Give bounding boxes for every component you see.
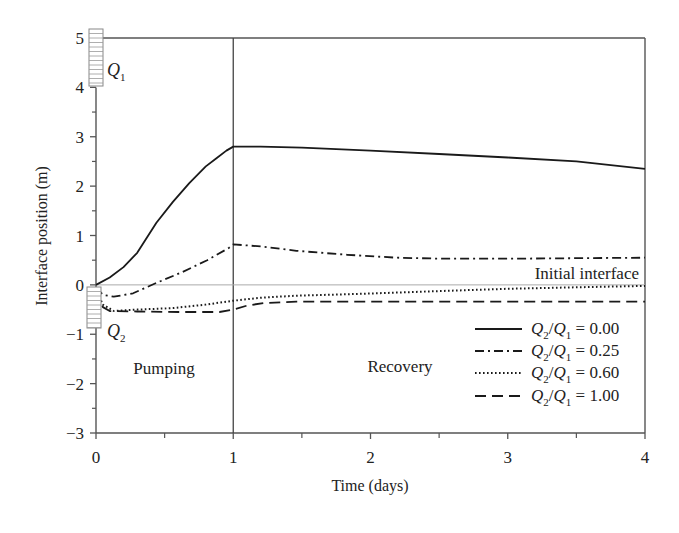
- y-tick-label: 3: [76, 128, 85, 147]
- initial-interface-label: Initial interface: [535, 264, 639, 283]
- q2-label: Q2: [107, 321, 126, 344]
- pumping-label: Pumping: [133, 359, 195, 378]
- interface-position-chart: 01234543210−1−2−3 Time (days) Interface …: [0, 0, 679, 533]
- x-tick-label: 2: [366, 448, 375, 467]
- legend-item-0-25: Q2/Q1 = 0.25: [475, 341, 619, 363]
- x-tick-label: 3: [504, 448, 513, 467]
- y-axis-label: Interface position (m): [33, 166, 51, 306]
- x-tick-label: 4: [641, 448, 650, 467]
- y-tick-label: 4: [76, 78, 85, 97]
- series-layer: [96, 147, 645, 312]
- legend-item-0-60: Q2/Q1 = 0.60: [475, 363, 619, 385]
- x-tick-label: 0: [92, 448, 101, 467]
- q2-subscript: 2: [120, 332, 126, 344]
- q1-label: Q1: [107, 60, 126, 83]
- q2-well-icon: [87, 287, 101, 328]
- y-tick-label: −3: [66, 424, 84, 443]
- x-axis-label: Time (days): [331, 477, 408, 495]
- q1-subscript: 1: [120, 71, 126, 83]
- series-line-0-60: [96, 286, 645, 311]
- y-tick-label: 1: [76, 227, 85, 246]
- series-line-1-00: [96, 290, 645, 312]
- legend-label: Q2/Q1 = 0.00: [531, 319, 619, 341]
- legend: Q2/Q1 = 0.00Q2/Q1 = 0.25Q2/Q1 = 0.60Q2/Q…: [475, 319, 619, 408]
- recovery-label: Recovery: [367, 357, 433, 376]
- y-tick-label: −2: [66, 375, 84, 394]
- legend-label: Q2/Q1 = 1.00: [531, 386, 619, 408]
- y-tick-label: 5: [76, 29, 85, 48]
- legend-label: Q2/Q1 = 0.60: [531, 363, 619, 385]
- legend-item-0-00: Q2/Q1 = 0.00: [475, 319, 619, 341]
- legend-item-1-00: Q2/Q1 = 1.00: [475, 386, 619, 408]
- legend-label: Q2/Q1 = 0.25: [531, 341, 619, 363]
- y-tick-label: 0: [76, 276, 85, 295]
- q1-well-icon: [89, 29, 103, 86]
- x-tick-label: 1: [229, 448, 238, 467]
- y-tick-label: −1: [66, 325, 84, 344]
- y-tick-label: 2: [76, 177, 85, 196]
